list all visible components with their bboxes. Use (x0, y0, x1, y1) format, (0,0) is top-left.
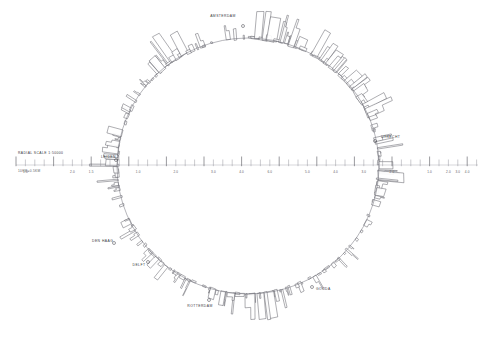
building-footprint (126, 94, 137, 102)
ruler-tick-label: 2.0 (446, 170, 451, 174)
ruler-tick-label: 3.0 (211, 170, 216, 174)
scale-caption: RADIAL SCALE 1:50000 (18, 151, 63, 155)
building-footprint (377, 151, 381, 156)
ruler-tick-label: 1.0 (427, 170, 432, 174)
building-footprint (227, 293, 235, 301)
city-marker-dot (147, 261, 150, 264)
building-footprint (246, 294, 247, 298)
building-footprint (154, 265, 168, 280)
city-marker-dot (242, 25, 245, 28)
city-label-amsterdam: AMSTERDAM (210, 14, 236, 18)
building-footprint (379, 162, 393, 169)
building-footprint (142, 248, 153, 261)
building-footprint (254, 12, 264, 39)
building-footprint (243, 35, 244, 39)
figure-root: 1.02.01.51.02.03.04.06.05.04.03.02.01.02… (0, 0, 500, 337)
scale-subcaption: 10KM=0.5KM (18, 169, 40, 173)
city-label-rotterdam: ROTTERDAM (187, 304, 213, 308)
ruler-tick-label: 2.0 (390, 170, 395, 174)
ruler-tick-label: 4.0 (333, 170, 338, 174)
city-label-gouda: GOUDA (316, 287, 331, 291)
ruler-tick-label: 1.0 (136, 170, 141, 174)
building-footprint (113, 167, 119, 174)
city-marker-dot (311, 286, 314, 289)
ruler-tick-label: 2.0 (70, 170, 75, 174)
ruler-group: 1.02.01.51.02.03.04.06.05.04.03.02.01.02… (16, 157, 478, 175)
building-footprint (147, 256, 159, 268)
city-marker-dot (208, 299, 211, 302)
building-footprint (195, 43, 199, 50)
ruler-tick-label: 2.0 (173, 170, 178, 174)
building-footprint (377, 144, 402, 149)
building-footprint (355, 238, 358, 242)
building-footprint (317, 273, 321, 276)
city-label-delft: DELFT (133, 263, 146, 267)
ruler-tick-label: 3.0 (361, 170, 366, 174)
building-footprint (224, 26, 230, 40)
building-footprint (97, 179, 118, 182)
city-label-utrecht: UTRECHT (381, 135, 400, 139)
ruler-tick-label: 1.5 (89, 170, 94, 174)
building-footprint (112, 182, 119, 186)
building-footprint (134, 91, 141, 96)
building-footprint (372, 200, 381, 207)
city-label-leiden: LEIDEN (101, 155, 116, 159)
building-footprint (364, 219, 373, 227)
footprint-group (89, 11, 404, 319)
radial-diagram: 1.02.01.51.02.03.04.06.05.04.03.02.01.02… (0, 0, 500, 337)
ruler-tick-label: 4.0 (465, 170, 470, 174)
ruler-tick-label: 3.0 (455, 170, 460, 174)
city-label-den-haag: DEN HAAG (92, 239, 113, 243)
building-footprint (281, 289, 287, 308)
ruler-tick-label: 4.0 (239, 170, 244, 174)
ruler-tick-label: 6.0 (267, 170, 272, 174)
ruler-tick-label: 5.0 (305, 170, 310, 174)
